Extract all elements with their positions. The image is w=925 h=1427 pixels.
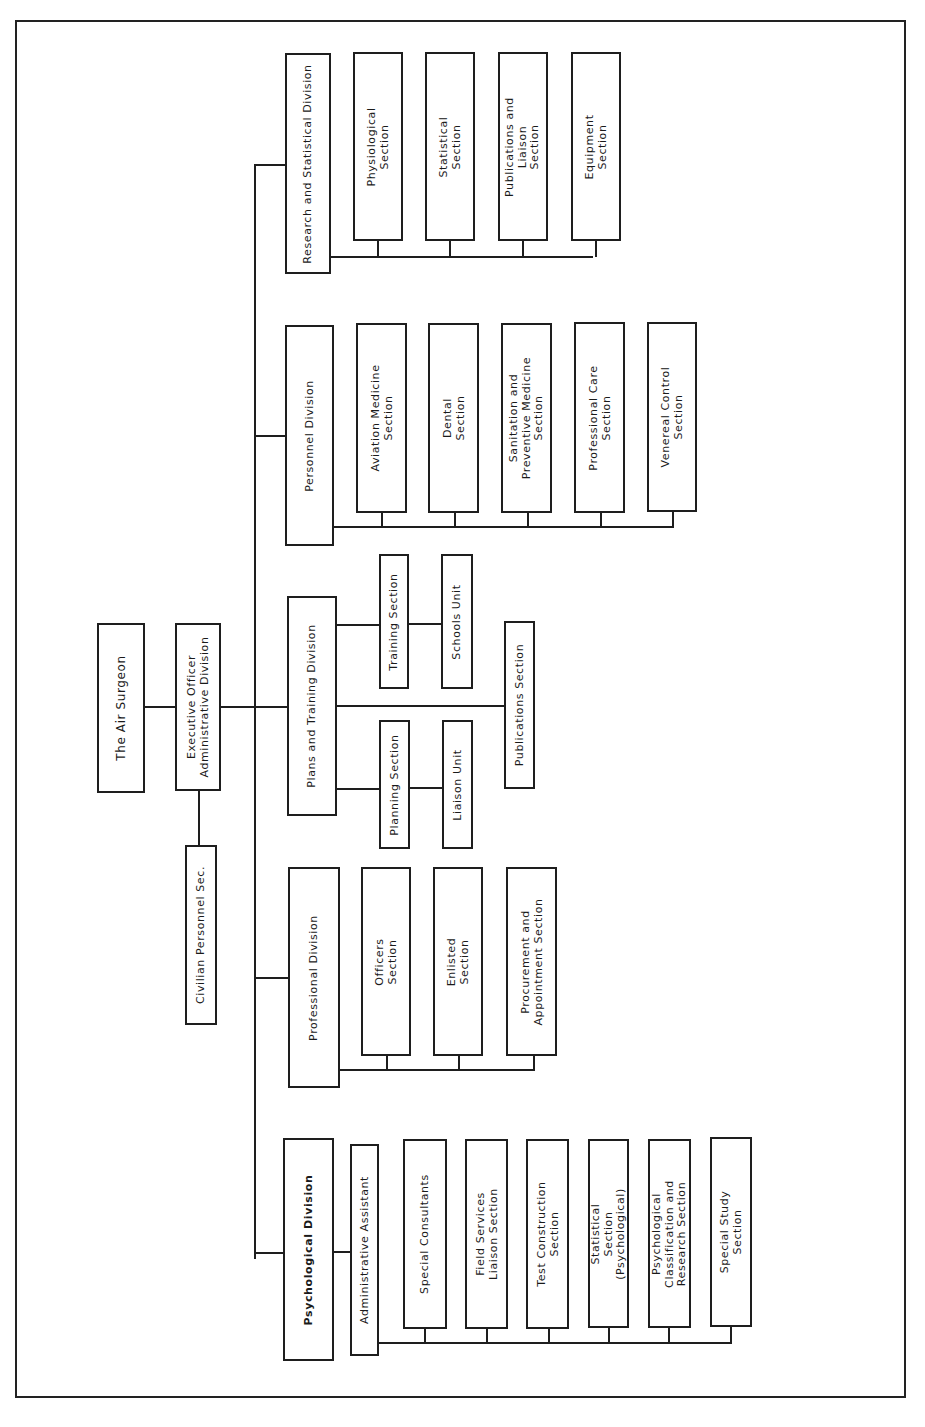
section-box: Enlisted Section: [433, 867, 483, 1056]
schools-unit-box: Schools Unit: [441, 554, 473, 689]
psychological-division-box: Psychological Division: [283, 1138, 334, 1361]
section-label: Training Section: [388, 573, 401, 670]
bus-line: [334, 526, 674, 528]
division-label: Psychological Division: [302, 1174, 315, 1325]
connector: [548, 1329, 550, 1343]
connector: [600, 513, 602, 527]
connector: [486, 1329, 488, 1343]
bus-line: [331, 256, 593, 258]
section-box: Field Services Liaison Section: [465, 1139, 508, 1329]
division-label: Plans and Training Division: [306, 624, 319, 788]
connector: [409, 623, 442, 625]
professional-division-box: Professional Division: [288, 867, 340, 1088]
bus-line: [379, 1342, 732, 1344]
personnel-division-box: Personnel Division: [285, 325, 334, 546]
unit-label: Schools Unit: [451, 584, 464, 659]
air-surgeon-label: The Air Surgeon: [115, 655, 128, 760]
section-label: Psychological Classification and Researc…: [651, 1180, 689, 1288]
section-box: Publications and Liaison Section: [498, 52, 548, 241]
research-statistical-division-box: Research and Statistical Division: [285, 53, 331, 274]
section-label: Sanitation and Preventive Medicine Secti…: [508, 357, 546, 479]
civilian-personnel-label: Civilian Personnel Sec.: [195, 866, 208, 1004]
connector: [386, 1056, 388, 1070]
training-section-box: Training Section: [379, 554, 409, 689]
section-label: Statistical Section: [438, 116, 463, 177]
connector: [410, 787, 442, 789]
publications-section-box: Publications Section: [504, 621, 535, 789]
connector: [424, 1329, 426, 1343]
section-label: Equipment Section: [584, 114, 609, 179]
executive-officer-label: Executive Officer Administrative Divisio…: [186, 637, 211, 778]
section-label: Enlisted Section: [446, 937, 471, 986]
connector: [381, 513, 383, 527]
air-surgeon-box: The Air Surgeon: [97, 623, 145, 793]
spine-line: [254, 164, 256, 1259]
connector: [337, 624, 379, 626]
section-label: Officers Section: [374, 938, 399, 985]
unit-label: Liaison Unit: [451, 749, 464, 821]
section-box: Officers Section: [361, 867, 411, 1056]
section-label: Planning Section: [388, 734, 401, 835]
section-box: Physiological Section: [353, 52, 403, 241]
connector: [533, 1056, 535, 1070]
section-box: Procurement and Appointment Section: [506, 867, 557, 1056]
section-box: Equipment Section: [571, 52, 621, 241]
connector: [668, 1328, 670, 1343]
section-label: Field Services Liaison Section: [474, 1188, 499, 1280]
connector: [458, 1056, 460, 1070]
section-box: Special Study Section: [710, 1137, 752, 1327]
connector: [337, 788, 379, 790]
connector: [337, 705, 504, 707]
connector: [254, 164, 285, 166]
civilian-personnel-box: Civilian Personnel Sec.: [185, 845, 217, 1025]
connector: [522, 241, 524, 257]
section-box: Professional Care Section: [574, 322, 625, 513]
planning-section-box: Planning Section: [379, 720, 410, 849]
section-box: Dental Section: [428, 323, 479, 513]
connector: [254, 706, 287, 708]
assistant-label: Administrative Assistant: [358, 1176, 371, 1324]
plans-training-division-box: Plans and Training Division: [287, 596, 337, 816]
connector: [449, 241, 451, 257]
connector: [454, 513, 456, 527]
section-label: Dental Section: [441, 395, 466, 440]
section-label: Venereal Control Section: [660, 367, 685, 468]
connector: [254, 977, 288, 979]
liaison-unit-box: Liaison Unit: [442, 720, 473, 849]
section-label: Test Construction Section: [535, 1181, 560, 1286]
division-label: Research and Statistical Division: [302, 64, 315, 263]
administrative-assistant-box: Administrative Assistant: [350, 1144, 379, 1356]
section-label: Statistical Section (Psychological): [590, 1188, 628, 1280]
section-box: Statistical Section: [425, 52, 475, 241]
division-label: Personnel Division: [303, 380, 316, 492]
section-label: Procurement and Appointment Section: [519, 898, 544, 1025]
connector: [145, 706, 175, 708]
connector: [334, 1251, 351, 1253]
section-label: Publications Section: [513, 644, 526, 766]
connector: [608, 1328, 610, 1343]
connector: [377, 241, 379, 257]
section-box: Statistical Section (Psychological): [588, 1139, 629, 1328]
section-label: Publications and Liaison Section: [504, 97, 542, 197]
section-label: Special Study Section: [719, 1191, 744, 1274]
connector: [254, 1252, 284, 1254]
executive-officer-box: Executive Officer Administrative Divisio…: [175, 623, 221, 791]
section-label: Professional Care Section: [587, 365, 612, 470]
section-label: Special Consultants: [419, 1174, 432, 1294]
section-box: Psychological Classification and Researc…: [648, 1139, 691, 1328]
section-box: Test Construction Section: [526, 1139, 569, 1329]
connector: [730, 1327, 732, 1343]
connector: [595, 241, 597, 257]
section-box: Special Consultants: [403, 1139, 447, 1329]
section-label: Aviation Medicine Section: [369, 364, 394, 471]
bus-line: [340, 1069, 535, 1071]
section-box: Sanitation and Preventive Medicine Secti…: [501, 323, 552, 513]
connector: [198, 791, 200, 845]
division-label: Professional Division: [308, 915, 321, 1041]
section-box: Aviation Medicine Section: [356, 323, 407, 513]
connector: [672, 512, 674, 527]
connector: [254, 435, 285, 437]
section-box: Venereal Control Section: [647, 322, 697, 512]
connector: [527, 513, 529, 527]
section-label: Physiological Section: [366, 107, 391, 186]
